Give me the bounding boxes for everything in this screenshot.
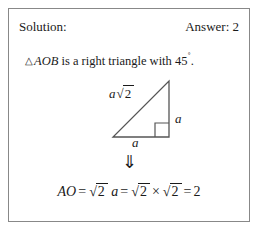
equation-lhs: AO xyxy=(58,184,77,199)
triangle-symbol-icon: △ xyxy=(25,55,34,66)
equation-term3-radical: √2 xyxy=(162,183,182,200)
statement-period: . xyxy=(191,54,194,68)
implies-down-arrow-icon: ⇓ xyxy=(9,153,249,171)
triangle-figure: a √2 a a xyxy=(97,71,193,151)
statement-line: △AOB is a right triangle with 45˚. xyxy=(25,51,194,69)
right-angle-marker-icon xyxy=(155,123,169,137)
final-equation: AO=√2 a=√2×√2=2 xyxy=(9,183,249,200)
statement-text: is a right triangle with 45 xyxy=(61,54,187,68)
equation-term3-radicand: 2 xyxy=(170,183,182,200)
solution-label: Solution: xyxy=(19,19,67,35)
answer-label: Answer: 2 xyxy=(185,19,239,35)
triangle-vertices-label: AOB xyxy=(34,54,58,68)
vertical-leg-label: a xyxy=(175,111,182,127)
hypotenuse-radicand: 2 xyxy=(123,85,135,102)
solution-card: Solution: Answer: 2 △AOB is a right tria… xyxy=(8,8,250,222)
base-leg-label: a xyxy=(132,135,139,151)
equation-term1-radical: √2 xyxy=(88,183,108,200)
equation-term1-radicand: 2 xyxy=(96,183,108,200)
equation-equals-1: = xyxy=(76,184,88,199)
equation-equals-2: = xyxy=(118,184,130,199)
header-row: Solution: Answer: 2 xyxy=(9,19,249,39)
hypotenuse-label: a √2 xyxy=(109,85,134,102)
equation-times-operator: × xyxy=(150,184,162,199)
equation-term2-radicand: 2 xyxy=(138,183,150,200)
equation-equals-3: = xyxy=(182,184,194,199)
hypotenuse-radical: √2 xyxy=(116,85,135,102)
equation-result: 2 xyxy=(193,184,200,199)
equation-term2-radical: √2 xyxy=(130,183,150,200)
